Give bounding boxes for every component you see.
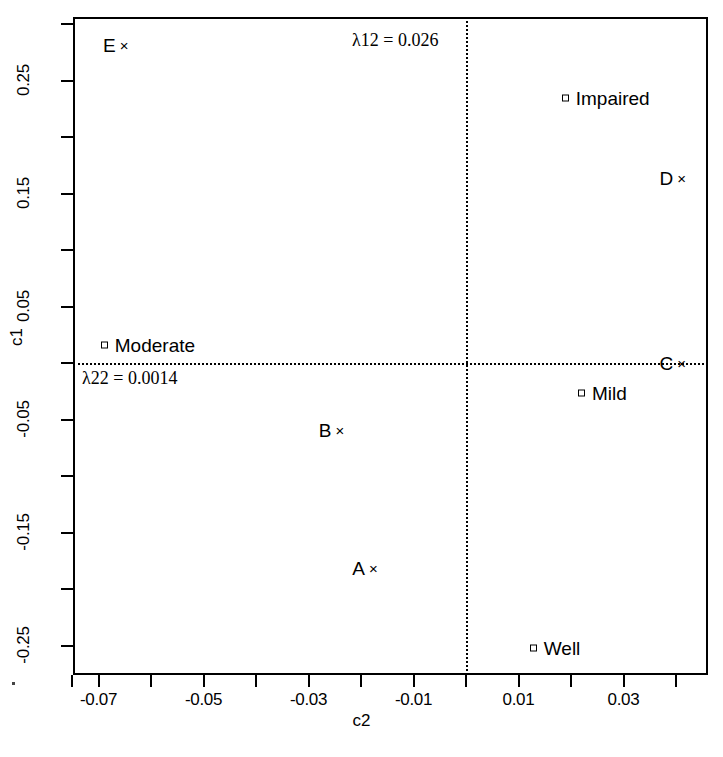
cross-marker-icon: × [677,171,686,186]
x-tick-major [518,675,520,687]
data-point-b: B× [319,421,344,440]
y-tick-major [61,645,73,647]
x-tick-minor [570,675,572,687]
zero-line-vertical [466,17,468,675]
x-tick-major [308,675,310,687]
x-tick-minor [71,675,73,687]
cross-marker-icon: × [335,423,344,438]
y-tick-minor [61,475,73,477]
data-point-mild: Mild [578,383,627,402]
y-tick-label: 0.15 [14,158,34,228]
y-tick-major [61,419,73,421]
x-axis-title: c2 [0,711,723,731]
y-tick-label: -0.05 [14,384,34,454]
data-point-c: C× [659,354,686,373]
point-label: A [352,558,365,577]
data-point-d: D× [659,169,686,188]
x-tick-minor [675,675,677,687]
x-tick-major [623,675,625,687]
x-tick-minor [255,675,257,687]
scan-speck [12,682,15,685]
y-tick-label: -0.25 [14,610,34,680]
x-tick-label: -0.01 [379,690,449,710]
cross-marker-icon: × [369,560,378,575]
y-tick-major [61,193,73,195]
x-tick-major [203,675,205,687]
point-label: B [319,421,332,440]
y-tick-minor [61,23,73,25]
data-point-e: E× [103,35,128,54]
y-tick-minor [61,136,73,138]
data-point-moderate: Moderate [101,336,195,355]
y-tick-major [61,532,73,534]
square-marker-icon [562,95,569,102]
y-tick-major [61,306,73,308]
point-label: C [659,354,673,373]
x-tick-label: -0.07 [64,690,134,710]
cross-marker-icon: × [120,37,129,52]
data-point-impaired: Impaired [562,89,650,108]
point-label: E [103,35,116,54]
annotation-lambda22: λ22 = 0.0014 [82,368,177,389]
square-marker-icon [101,342,108,349]
x-tick-minor [360,675,362,687]
y-axis-title: c1 [7,302,27,372]
y-tick-minor [61,249,73,251]
point-label: D [659,169,673,188]
x-tick-label: 0.03 [589,690,659,710]
point-label: Moderate [115,336,195,355]
data-point-well: Well [530,638,581,657]
y-tick-minor [61,362,73,364]
square-marker-icon [530,644,537,651]
x-tick-major [413,675,415,687]
y-tick-label: 0.25 [14,45,34,115]
y-tick-major [61,80,73,82]
point-label: Impaired [576,89,650,108]
zero-line-horizontal [73,363,708,365]
y-tick-label: -0.15 [14,497,34,567]
x-tick-label: -0.05 [169,690,239,710]
x-tick-minor [465,675,467,687]
x-tick-minor [150,675,152,687]
y-tick-minor [61,588,73,590]
point-label: Mild [592,383,627,402]
x-tick-label: -0.03 [274,690,344,710]
chart-canvas: -0.07-0.05-0.03-0.010.010.03 0.250.150.0… [0,0,723,757]
data-point-a: A× [352,558,377,577]
annotation-lambda12: λ12 = 0.026 [352,30,438,51]
point-label: Well [544,638,581,657]
square-marker-icon [578,389,585,396]
x-tick-major [98,675,100,687]
cross-marker-icon: × [677,356,686,371]
x-tick-label: 0.01 [484,690,554,710]
